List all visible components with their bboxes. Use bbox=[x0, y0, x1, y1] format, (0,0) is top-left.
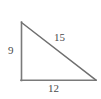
triangle-figure: 9 15 12 bbox=[0, 0, 101, 99]
vertical-leg-label: 9 bbox=[8, 45, 14, 56]
hypotenuse-label: 15 bbox=[54, 32, 65, 43]
horizontal-leg-label: 12 bbox=[48, 83, 59, 94]
